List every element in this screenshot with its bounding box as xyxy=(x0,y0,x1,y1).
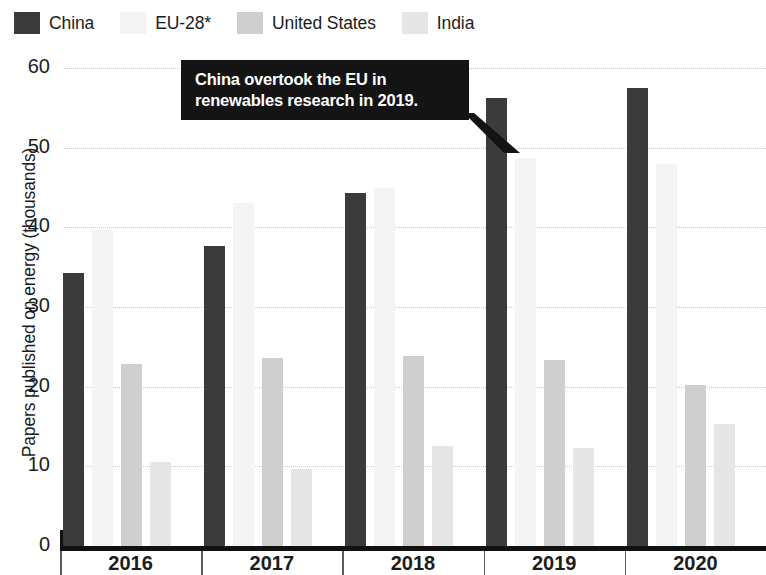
y-axis-line xyxy=(60,530,63,550)
bar-group-2020 xyxy=(625,60,766,546)
x-tick-label-2018: 2018 xyxy=(343,552,483,575)
legend-swatch-eu-28 xyxy=(120,12,146,34)
bar-india-2018 xyxy=(432,446,453,546)
bar-us-2020 xyxy=(685,385,706,546)
legend-label-china: China xyxy=(49,13,94,34)
bar-eu-2019 xyxy=(515,158,536,546)
legend-label-united-states: United States xyxy=(272,13,376,34)
y-tick-label: 30 xyxy=(0,294,50,317)
bar-us-2019 xyxy=(544,360,565,546)
legend-swatch-united-states xyxy=(237,12,263,34)
chart-legend: China EU-28* United States India xyxy=(14,10,500,36)
x-tick-label-2017: 2017 xyxy=(202,552,342,575)
bar-group-2016 xyxy=(60,60,201,546)
bar-eu-2020 xyxy=(656,164,677,546)
bar-china-2017 xyxy=(204,246,225,546)
y-tick-label: 40 xyxy=(0,214,50,237)
bar-india-2017 xyxy=(291,469,312,546)
bar-india-2019 xyxy=(573,448,594,546)
bar-eu-2016 xyxy=(92,230,113,546)
legend-swatch-india xyxy=(402,12,428,34)
bar-india-2020 xyxy=(714,424,735,546)
legend-item-united-states: United States xyxy=(237,12,376,34)
annotation-text: China overtook the EU in renewables rese… xyxy=(195,69,455,111)
bar-us-2018 xyxy=(403,356,424,546)
y-tick-label: 10 xyxy=(0,453,50,476)
legend-item-eu-28: EU-28* xyxy=(120,12,211,34)
x-tick-label-2016: 2016 xyxy=(61,552,201,575)
bar-group-2017 xyxy=(201,60,342,546)
bar-china-2016 xyxy=(63,273,84,546)
y-tick-label: 50 xyxy=(0,135,50,158)
x-axis: 20162017201820192020 xyxy=(60,551,766,575)
y-tick-label: 0 xyxy=(0,533,50,556)
bar-us-2017 xyxy=(262,358,283,546)
bar-eu-2017 xyxy=(233,203,254,546)
legend-swatch-china xyxy=(14,12,40,34)
plot-inner xyxy=(60,60,766,546)
x-tick-label-2020: 2020 xyxy=(625,552,765,575)
legend-item-china: China xyxy=(14,12,94,34)
legend-label-india: India xyxy=(437,13,474,34)
y-tick-label: 60 xyxy=(0,55,50,78)
annotation-callout: China overtook the EU in renewables rese… xyxy=(181,60,469,120)
plot-area xyxy=(60,60,766,546)
bar-china-2019 xyxy=(486,98,507,546)
bar-china-2020 xyxy=(627,88,648,546)
legend-label-eu-28: EU-28* xyxy=(155,13,211,34)
bar-us-2016 xyxy=(121,364,142,546)
y-tick-label: 20 xyxy=(0,374,50,397)
x-axis-separator xyxy=(60,551,62,575)
bar-group-2018 xyxy=(342,60,483,546)
chart-root: China EU-28* United States India Papers … xyxy=(0,0,766,575)
bar-china-2018 xyxy=(345,193,366,546)
bar-group-2019 xyxy=(484,60,625,546)
bar-india-2016 xyxy=(150,462,171,546)
x-tick-label-2019: 2019 xyxy=(484,552,624,575)
bar-eu-2018 xyxy=(374,188,395,547)
legend-item-india: India xyxy=(402,12,474,34)
